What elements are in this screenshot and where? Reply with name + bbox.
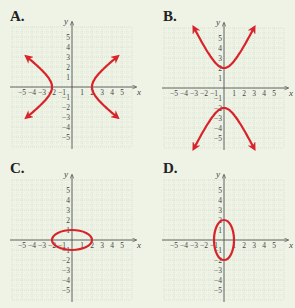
svg-text:4: 4 (218, 196, 222, 205)
svg-text:−5: −5 (170, 241, 178, 250)
svg-text:x: x (136, 240, 141, 250)
svg-text:−5: −5 (62, 286, 70, 295)
svg-text:3: 3 (100, 88, 104, 97)
svg-text:3: 3 (218, 54, 222, 63)
svg-text:−1: −1 (62, 93, 70, 102)
svg-text:−2: −2 (62, 256, 70, 265)
svg-text:−2: −2 (200, 89, 208, 98)
svg-text:−4: −4 (180, 241, 188, 250)
svg-text:−4: −4 (28, 88, 36, 97)
svg-text:x: x (288, 240, 293, 250)
svg-text:4: 4 (218, 44, 222, 53)
svg-text:3: 3 (252, 89, 256, 98)
svg-text:3: 3 (218, 206, 222, 215)
svg-text:−3: −3 (62, 266, 70, 275)
svg-text:4: 4 (66, 43, 70, 52)
graph-a: xy−5−4−3−2−11234554321−1−2−3−4−5 (10, 16, 141, 149)
svg-text:5: 5 (66, 186, 70, 195)
svg-text:2: 2 (242, 89, 246, 98)
svg-text:5: 5 (120, 88, 124, 97)
graphs-canvas: xy−5−4−3−2−11234554321−1−2−3−4−5xy−5−4−3… (0, 0, 295, 308)
svg-text:−3: −3 (214, 266, 222, 275)
svg-text:−3: −3 (62, 113, 70, 122)
svg-text:5: 5 (66, 33, 70, 42)
svg-text:3: 3 (66, 206, 70, 215)
svg-text:4: 4 (110, 88, 114, 97)
svg-text:5: 5 (120, 241, 124, 250)
svg-text:1: 1 (80, 88, 84, 97)
svg-text:3: 3 (66, 53, 70, 62)
svg-text:1: 1 (232, 89, 236, 98)
svg-text:−4: −4 (28, 241, 36, 250)
svg-text:−2: −2 (62, 103, 70, 112)
svg-text:−2: −2 (200, 241, 208, 250)
svg-text:5: 5 (272, 89, 276, 98)
svg-text:−3: −3 (38, 88, 46, 97)
svg-text:4: 4 (66, 196, 70, 205)
svg-text:−4: −4 (214, 124, 222, 133)
svg-text:5: 5 (218, 34, 222, 43)
svg-text:−4: −4 (180, 89, 188, 98)
svg-text:x: x (136, 87, 141, 97)
svg-text:−5: −5 (18, 241, 26, 250)
svg-text:5: 5 (218, 186, 222, 195)
svg-text:−4: −4 (214, 276, 222, 285)
svg-text:−5: −5 (214, 286, 222, 295)
svg-text:2: 2 (66, 63, 70, 72)
svg-text:3: 3 (252, 241, 256, 250)
graph-b: xy−5−4−3−2−11234554321−1−2−3−4−5 (162, 17, 293, 150)
svg-text:y: y (215, 169, 220, 179)
svg-text:−5: −5 (62, 133, 70, 142)
svg-text:−3: −3 (38, 241, 46, 250)
svg-text:2: 2 (242, 241, 246, 250)
svg-text:4: 4 (262, 241, 266, 250)
svg-text:y: y (63, 169, 68, 179)
svg-text:2: 2 (66, 216, 70, 225)
svg-text:−5: −5 (170, 89, 178, 98)
svg-text:4: 4 (110, 241, 114, 250)
svg-text:−5: −5 (18, 88, 26, 97)
svg-text:−3: −3 (190, 89, 198, 98)
svg-text:−4: −4 (62, 123, 70, 132)
svg-text:−3: −3 (190, 241, 198, 250)
svg-text:y: y (215, 17, 220, 27)
svg-text:−4: −4 (62, 276, 70, 285)
graph-c: xy−5−4−3−2−11234554321−1−2−3−4−5 (10, 169, 141, 302)
svg-text:4: 4 (262, 89, 266, 98)
svg-text:x: x (288, 88, 293, 98)
svg-text:1: 1 (66, 73, 70, 82)
svg-text:3: 3 (100, 241, 104, 250)
graph-d: xy−5−4−3−2−11234554321−1−2−3−4−5 (162, 169, 293, 302)
svg-text:1: 1 (218, 226, 222, 235)
svg-text:−5: −5 (214, 134, 222, 143)
svg-text:1: 1 (218, 74, 222, 83)
svg-text:−1: −1 (214, 94, 222, 103)
svg-text:y: y (63, 16, 68, 26)
svg-text:5: 5 (272, 241, 276, 250)
